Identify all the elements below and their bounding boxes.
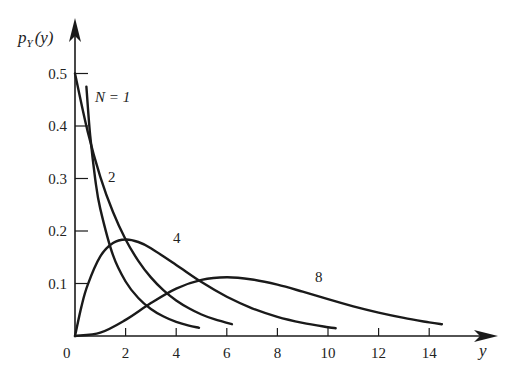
- y-axis-label-arg: (y): [35, 28, 54, 47]
- y-axis-label: pY(y): [17, 28, 54, 49]
- x-tick-label: 12: [371, 345, 386, 361]
- curves: [75, 74, 442, 337]
- x-tick-label: 10: [321, 345, 336, 361]
- curve-label-n4: 4: [173, 230, 181, 246]
- axes: 2468101214 0.10.20.30.40.5: [48, 18, 498, 361]
- x-tick-label: 6: [223, 345, 231, 361]
- x-tick-label: 8: [274, 345, 282, 361]
- x-ticks: 2468101214: [122, 328, 437, 361]
- x-axis-label: y: [477, 341, 487, 360]
- y-tick-label: 0.2: [48, 223, 67, 239]
- curve-labels: N = 1 2 4 8: [94, 89, 323, 285]
- x-tick-label: 2: [122, 345, 130, 361]
- y-tick-label: 0.5: [48, 66, 67, 82]
- curve-label-n2: 2: [108, 169, 116, 185]
- y-tick-label: 0.4: [48, 118, 67, 134]
- curve-label-n1: N = 1: [94, 89, 130, 105]
- y-axis-label-sub: Y: [27, 37, 35, 49]
- y-tick-label: 0.3: [48, 171, 67, 187]
- chart: 2468101214 0.10.20.30.40.5 0 y pY(y) N =…: [0, 0, 516, 375]
- curve-n8: [75, 277, 442, 336]
- x-tick-label: 14: [422, 345, 438, 361]
- curve-n1: [86, 87, 199, 328]
- y-tick-label: 0.1: [48, 276, 67, 292]
- curve-label-n8: 8: [315, 269, 323, 285]
- x-tick-label: 4: [172, 345, 180, 361]
- curve-n4: [75, 239, 336, 336]
- y-axis-label-p: p: [17, 28, 27, 47]
- curve-label-n1-text: N = 1: [94, 89, 130, 105]
- y-ticks: 0.10.20.30.40.5: [48, 66, 88, 292]
- origin-label: 0: [63, 345, 71, 361]
